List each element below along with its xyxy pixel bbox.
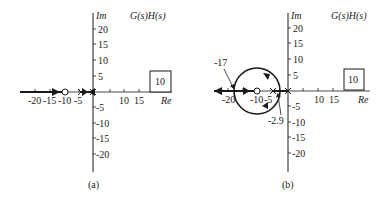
re-tick-label: -15 xyxy=(43,95,56,106)
im-tick-label: 5 xyxy=(293,70,298,81)
re-axis-label: Re xyxy=(160,95,172,106)
im-tick-label: 20 xyxy=(98,24,108,35)
re-tick-label: -10 xyxy=(250,94,263,105)
im-tick-label: -15 xyxy=(292,132,305,143)
re-tick-label: -5 xyxy=(74,95,82,106)
gain-box-value: 10 xyxy=(155,76,165,87)
breakin-arrow xyxy=(224,69,233,87)
panel-caption: (a) xyxy=(88,179,99,191)
re-tick-label: -5 xyxy=(264,94,272,105)
re-tick-label: 15 xyxy=(134,95,144,106)
im-tick-label: -5 xyxy=(292,101,300,112)
im-tick-label: -15 xyxy=(96,133,109,144)
im-tick-label: 5 xyxy=(98,71,103,82)
re-tick-label: 10 xyxy=(314,94,324,105)
arrow-left-icon xyxy=(214,87,222,95)
im-axis-label: Im xyxy=(95,10,107,21)
re-tick-label: -20 xyxy=(222,94,235,105)
re-tick-label: 15 xyxy=(329,94,339,105)
im-tick-label: 15 xyxy=(293,38,303,49)
im-tick-label: -20 xyxy=(292,148,305,159)
im-tick-label: -10 xyxy=(292,117,305,128)
panel-b: -17 -2.9 -20 -10 -5 10 15 20 15 10 5 -5 … xyxy=(214,10,370,191)
re-tick-label: -20 xyxy=(28,95,41,106)
panel-a: -20 -15 -10 -5 10 15 20 15 10 5 -5 -10 -… xyxy=(20,10,172,191)
transfer-function-label: G(s)H(s) xyxy=(130,10,166,22)
im-axis-label: Im xyxy=(290,10,302,21)
im-tick-label: 15 xyxy=(98,39,108,50)
arrow-right-icon xyxy=(82,88,88,96)
re-tick-label: 10 xyxy=(119,95,129,106)
root-locus-figure: -20 -15 -10 -5 10 15 20 15 10 5 -5 -10 -… xyxy=(0,0,383,198)
breakin-annotation: -17 xyxy=(214,57,227,68)
re-axis-label: Re xyxy=(357,94,369,105)
im-tick-label: 10 xyxy=(98,55,108,66)
transfer-function-label: G(s)H(s) xyxy=(331,10,367,22)
arrow-icon xyxy=(263,73,270,80)
breakaway-annotation: -2.9 xyxy=(268,115,284,126)
im-tick-label: 10 xyxy=(293,54,303,65)
arrow-right-icon xyxy=(243,87,250,95)
im-tick-label: 20 xyxy=(293,23,303,34)
re-tick-label: -10 xyxy=(58,95,71,106)
im-tick-label: -5 xyxy=(96,102,104,113)
im-tick-label: -20 xyxy=(96,149,109,160)
gain-box-value: 10 xyxy=(348,74,358,85)
panel-caption: (b) xyxy=(282,179,294,191)
im-tick-label: -10 xyxy=(96,118,109,129)
